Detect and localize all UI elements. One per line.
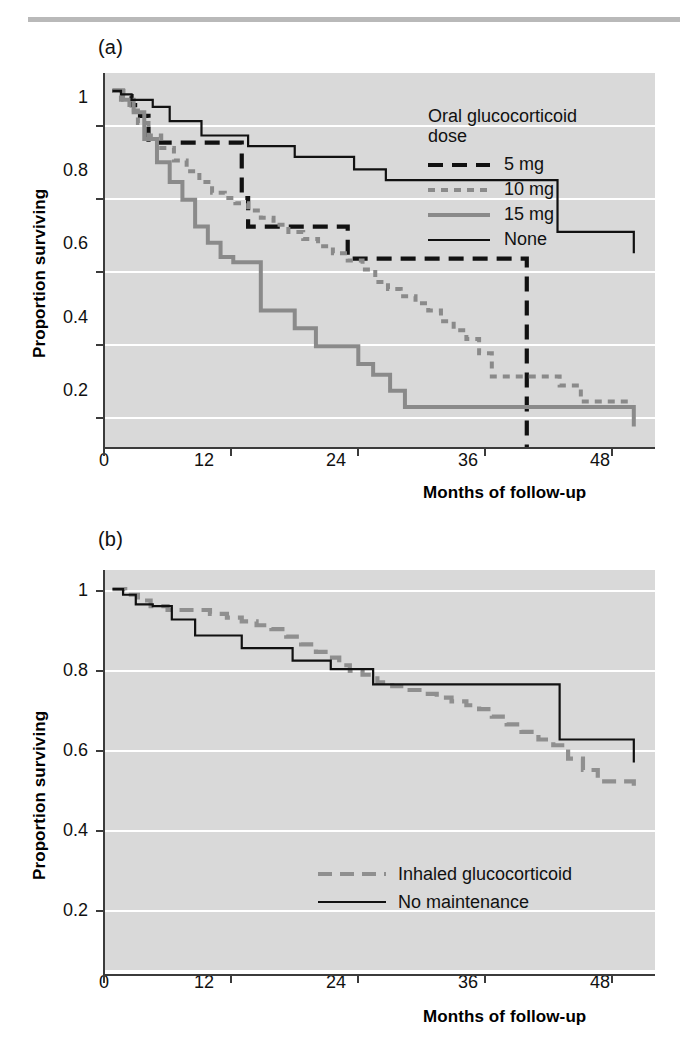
panel-a-legend-item-15mg[interactable]: 15 mg (428, 202, 577, 227)
panel-b-legend-item-inhaled[interactable]: Inhaled glucocorticoid (318, 860, 572, 888)
panel-a-axes (90, 68, 665, 468)
panel-a-ytick-1.0: 1 (30, 87, 88, 108)
legend-swatch-gray-solid-icon (428, 208, 490, 222)
panel-a-letter: (a) (98, 36, 123, 59)
panel-a-ytick-0.2: 0.2 (30, 380, 88, 401)
panel-a-y-axis-title: Proportion surviving (30, 189, 50, 358)
legend-swatch-black-thin-b-icon (318, 895, 386, 909)
panel-a-legend-item-none[interactable]: None (428, 227, 577, 252)
panel-b-ytick-1.0: 1 (30, 580, 88, 601)
top-divider-rule (28, 17, 680, 22)
panel-b: (b) Proportion surviving 1 0.8 0.6 0.4 0… (0, 520, 694, 1048)
panel-a: (a) Proportion surviving 1 0.8 0.6 0.4 0… (0, 28, 694, 518)
panel-b-ytick-0.4: 0.4 (30, 820, 88, 841)
panel-a-legend: Oral glucocorticoid dose 5 mg 10 mg 15 (428, 106, 577, 252)
panel-b-ytick-0.8: 0.8 (30, 660, 88, 681)
panel-b-ytick-0.2: 0.2 (30, 900, 88, 921)
panel-b-legend-item-no-maintenance[interactable]: No maintenance (318, 888, 572, 916)
legend-swatch-black-dash-icon (428, 158, 490, 172)
legend-swatch-gray-dot-icon (428, 183, 490, 197)
panel-a-legend-title: Oral glucocorticoid dose (428, 106, 577, 146)
panel-a-legend-title-line2: dose (428, 126, 577, 146)
panel-a-legend-title-line1: Oral glucocorticoid (428, 106, 577, 126)
panel-a-ytick-0.4: 0.4 (30, 307, 88, 328)
panel-b-ytick-0.6: 0.6 (30, 740, 88, 761)
panel-a-ytick-0.8: 0.8 (30, 160, 88, 181)
legend-swatch-gray-dash-icon (318, 867, 386, 881)
panel-a-x-axis-title: Months of follow-up (423, 483, 586, 503)
panel-b-letter: (b) (98, 528, 123, 551)
legend-swatch-black-thin-icon (428, 233, 490, 247)
panel-b-x-axis-title: Months of follow-up (423, 1007, 586, 1027)
panel-b-legend-label-no-maintenance: No maintenance (398, 892, 529, 913)
panel-b-legend: Inhaled glucocorticoid No maintenance (318, 860, 572, 916)
panel-a-ytick-0.6: 0.6 (30, 233, 88, 254)
panel-a-legend-label-15mg: 15 mg (504, 204, 554, 225)
panel-b-legend-label-inhaled: Inhaled glucocorticoid (398, 864, 572, 885)
panel-a-legend-label-5mg: 5 mg (504, 154, 544, 175)
panel-a-legend-label-10mg: 10 mg (504, 179, 554, 200)
panel-b-y-axis-title: Proportion surviving (30, 711, 50, 880)
panel-a-legend-label-none: None (504, 229, 547, 250)
panel-a-legend-item-10mg[interactable]: 10 mg (428, 177, 577, 202)
panel-a-legend-item-5mg[interactable]: 5 mg (428, 152, 577, 177)
panel-b-axes (90, 565, 665, 990)
